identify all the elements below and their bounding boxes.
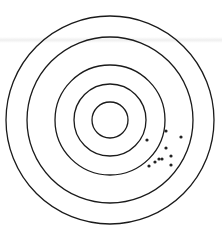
target-ring-2 <box>27 37 193 203</box>
shot-hole <box>157 157 160 160</box>
target-rings <box>6 16 214 224</box>
shot-hole <box>147 164 150 167</box>
shot-hole <box>179 135 182 138</box>
shot-hole <box>160 157 163 160</box>
shot-hole <box>169 154 172 157</box>
target-ring-3 <box>55 65 165 175</box>
target-figure <box>0 0 222 236</box>
shot-hole <box>145 138 148 141</box>
target-ring-1 <box>6 16 214 224</box>
target-ring-4 <box>74 84 146 156</box>
shot-hole <box>169 163 172 166</box>
shot-hole <box>164 146 167 149</box>
target-ring-5 <box>92 102 128 138</box>
shot-group <box>145 129 182 167</box>
shot-hole <box>153 160 156 163</box>
target-diagram <box>0 0 222 236</box>
shot-hole <box>164 129 167 132</box>
